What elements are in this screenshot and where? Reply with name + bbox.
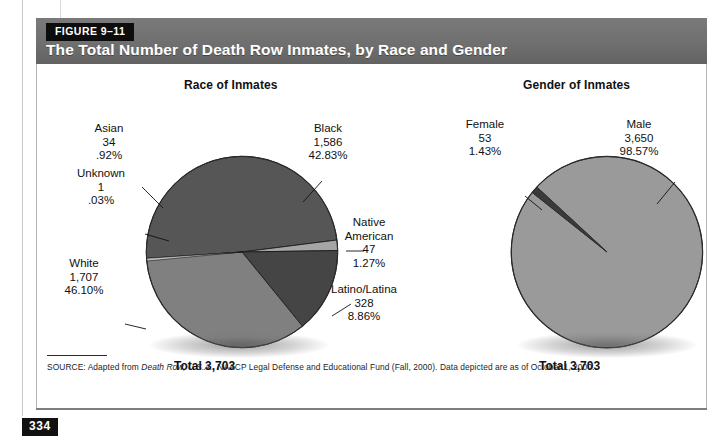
gender-slice-male [511,157,702,348]
race-label-white: White 1,707 46.10% [47,257,121,298]
page-number: 334 [22,418,58,436]
figure-title: The Total Number of Death Row Inmates, b… [46,40,507,60]
race-label-native-american-percent: 1.27% [327,257,411,271]
page-gutter-line [22,0,23,416]
race-label-native-american-name2: American [327,230,411,244]
figure-header-band: FIGURE 9–11 The Total Number of Death Ro… [36,18,707,64]
race-label-black-percent: 42.83% [292,149,364,163]
race-label-black-value: 1,586 [292,136,364,150]
race-label-unknown-name: Unknown [59,167,143,181]
gender-label-male-value: 3,650 [602,132,676,146]
race-label-unknown-percent: .03% [59,194,143,208]
race-label-black-name: Black [292,122,364,136]
race-label-asian-percent: .92% [75,149,143,163]
gender-label-male-percent: 98.57% [602,145,676,159]
gender-label-female-value: 53 [449,132,521,146]
race-label-asian-value: 34 [75,136,143,150]
source-remainder: , NAACP Legal Defense and Educational Fu… [213,362,595,372]
gender-label-male-name: Male [602,118,676,132]
source-note: SOURCE: Adapted from Death Row, U.S.A., … [47,362,594,372]
race-label-latino-latina: Latino/Latina 328 8.86% [311,283,417,324]
race-label-unknown: Unknown 1 .03% [59,167,143,208]
gender-chart-title: Gender of Inmates [523,78,630,92]
figure-body: Race of Inmates [36,64,707,409]
gender-label-male: Male 3,650 98.57% [602,118,676,159]
source-prefix: SOURCE: Adapted from [47,362,141,372]
figure-container: FIGURE 9–11 The Total Number of Death Ro… [36,18,707,409]
gender-pie-shadow [517,332,697,358]
race-label-white-percent: 46.10% [47,284,121,298]
race-label-latino-latina-value: 328 [311,297,417,311]
gender-label-female: Female 53 1.43% [449,118,521,159]
race-label-native-american: Native American 47 1.27% [327,216,411,270]
race-label-asian: Asian 34 .92% [75,122,143,163]
race-label-native-american-name: Native [327,216,411,230]
figure-page: FIGURE 9–11 The Total Number of Death Ro… [0,0,727,440]
race-label-white-value: 1,707 [47,271,121,285]
race-label-white-name: White [47,257,121,271]
figure-number-badge: FIGURE 9–11 [46,23,134,41]
race-label-native-american-value: 47 [327,243,411,257]
gender-label-female-name: Female [449,118,521,132]
figure-bottom-rule [36,408,707,410]
gender-pie-chart [485,124,727,379]
race-label-unknown-value: 1 [59,181,143,195]
race-label-black: Black 1,586 42.83% [292,122,364,163]
source-divider [47,355,107,356]
race-pie-shadow [149,332,329,358]
race-label-asian-name: Asian [75,122,143,136]
race-label-latino-latina-name: Latino/Latina [311,283,417,297]
race-label-latino-latina-percent: 8.86% [311,310,417,324]
gender-label-female-percent: 1.43% [449,145,521,159]
race-chart-title: Race of Inmates [184,78,278,92]
source-title-italic: Death Row, U.S.A. [141,362,212,372]
